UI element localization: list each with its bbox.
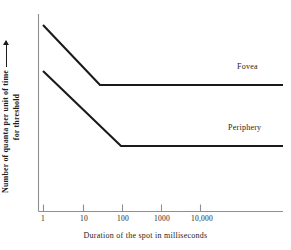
series-label-fovea: Fovea [237,62,258,71]
series-line-fovea [43,25,283,85]
series-label-periphery: Periphery [228,123,261,132]
series-line-periphery [43,71,283,146]
x-tick-label-1000: 1000 [154,214,170,223]
x-tick-label-10: 10 [80,214,88,223]
x-tick-label-100: 100 [117,214,129,223]
x-axis-ticks [44,205,201,212]
x-axis-title: Duration of the spot in milliseconds [0,231,291,240]
x-tick-label-1: 1 [41,214,45,223]
chart-figure: 1 10 100 1000 10,000 Fovea Periphery Dur… [0,0,291,250]
x-tick-label-10000: 10,000 [191,214,213,223]
